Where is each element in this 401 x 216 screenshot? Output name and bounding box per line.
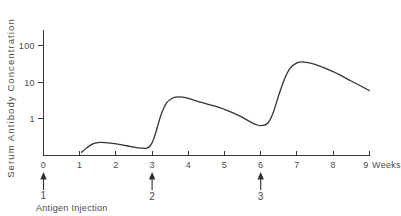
- x-axis-units-label: Weeks: [372, 160, 401, 170]
- arrow-2-head: [149, 172, 155, 180]
- x-tick-label-7: 7: [294, 160, 299, 170]
- antibody-response-chart: Serum Antibody Concentration 100 10 1 0 …: [0, 0, 401, 216]
- antigen-injection-caption: Antigen Injection: [36, 203, 108, 213]
- x-tick-label-8: 8: [330, 160, 335, 170]
- x-tick-label-9: 9: [363, 160, 368, 170]
- x-tick-label-3: 3: [149, 160, 154, 170]
- x-tick-label-4: 4: [186, 160, 191, 170]
- arrow-1-head: [40, 172, 46, 180]
- x-tick-label-0: 0: [41, 160, 46, 170]
- annotation-arrow-2: 2: [149, 172, 155, 202]
- arrow-3-head: [258, 172, 264, 180]
- arrow-1-label: 1: [41, 190, 47, 201]
- y-axis-ticks: 100 10 1: [19, 41, 44, 124]
- y-tick-label-1: 1: [30, 114, 35, 124]
- x-tick-label-6: 6: [258, 160, 263, 170]
- chart-canvas: Serum Antibody Concentration 100 10 1 0 …: [0, 0, 401, 216]
- x-tick-label-1: 1: [77, 160, 82, 170]
- x-axis-ticks: 0 1 2 3 4 5 6 7 8 9 Weeks: [41, 151, 401, 171]
- y-tick-label-100: 100: [19, 41, 35, 51]
- arrow-2-label: 2: [149, 191, 155, 202]
- annotation-arrow-1: 1: [40, 172, 46, 201]
- y-tick-label-10: 10: [24, 78, 35, 88]
- antibody-response-curve: [82, 62, 370, 152]
- y-axis-title: Serum Antibody Concentration: [5, 18, 16, 178]
- y-axis-title-text: Serum Antibody Concentration: [5, 18, 16, 178]
- x-tick-label-5: 5: [222, 160, 227, 170]
- arrow-3-label: 3: [258, 191, 264, 202]
- x-tick-label-2: 2: [113, 160, 118, 170]
- annotation-arrow-3: 3: [258, 172, 264, 202]
